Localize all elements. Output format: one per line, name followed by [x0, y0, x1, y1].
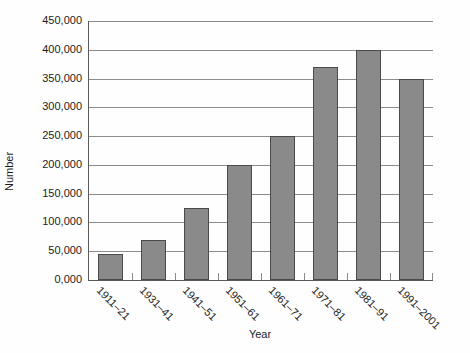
- y-axis-tick-label: 100,000: [0, 215, 82, 228]
- bar: [141, 240, 166, 280]
- gridline: [89, 194, 433, 195]
- x-axis-tick: [218, 273, 219, 280]
- bar: [356, 50, 381, 280]
- bar: [313, 67, 338, 280]
- y-axis-tick-label: 200,000: [0, 158, 82, 171]
- x-axis-tick: [175, 273, 176, 280]
- y-axis-tick-label: 50,000: [0, 244, 82, 257]
- x-axis-tick: [261, 273, 262, 280]
- x-axis-tick: [304, 273, 305, 280]
- y-axis-tick-label: 300,000: [0, 100, 82, 113]
- bar: [270, 136, 295, 280]
- x-axis-title: Year: [88, 328, 432, 341]
- y-axis-tick-label: 350,000: [0, 72, 82, 85]
- bar-chart-figure: Number 0,00050,000100,000150,000200,0002…: [0, 0, 470, 353]
- y-axis-tick-label: 450,000: [0, 14, 82, 27]
- y-axis-tick-label: 0,000: [0, 273, 82, 286]
- bar: [98, 254, 123, 280]
- x-axis-category-label: 1951–61: [223, 284, 262, 323]
- gridline: [89, 79, 433, 80]
- gridline: [89, 107, 433, 108]
- x-axis-tick: [132, 273, 133, 280]
- gridline: [89, 136, 433, 137]
- gridline: [89, 222, 433, 223]
- x-axis-tick: [347, 273, 348, 280]
- bar: [227, 165, 252, 280]
- x-axis-category-label: 1941–51: [180, 284, 219, 323]
- bar: [184, 208, 209, 280]
- gridline: [89, 21, 433, 22]
- x-axis-category-label: 1971–81: [309, 284, 348, 323]
- x-axis-tick: [432, 273, 433, 280]
- plot-area: [88, 21, 433, 281]
- x-axis-category-label: 1961–71: [266, 284, 305, 323]
- gridline: [89, 165, 433, 166]
- x-axis-category-label: 1981–91: [352, 284, 391, 323]
- x-axis-category-label: 1931–41: [137, 284, 176, 323]
- x-axis-category-label: 1991–2001: [395, 284, 442, 331]
- gridline: [89, 50, 433, 51]
- x-axis-tick: [390, 273, 391, 280]
- bar: [399, 79, 424, 280]
- y-axis-tick-label: 150,000: [0, 187, 82, 200]
- x-axis-category-label: 1911–21: [94, 284, 132, 322]
- y-axis-tick-label: 250,000: [0, 129, 82, 142]
- y-axis-tick-label: 400,000: [0, 43, 82, 56]
